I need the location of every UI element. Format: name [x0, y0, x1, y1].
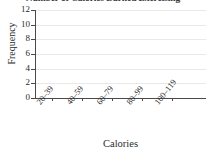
x-tick-mark — [172, 98, 173, 101]
y-axis-title: Frequency — [6, 8, 17, 80]
x-tick-mark — [142, 98, 143, 101]
x-axis-title: Calories — [35, 138, 206, 149]
chart-title: Number of Calories Burned Exercising — [0, 0, 206, 4]
y-tick-mark — [31, 25, 35, 26]
y-axis-line — [35, 10, 36, 98]
y-tick-mark — [31, 69, 35, 70]
y-tick-label: 0 — [10, 93, 30, 102]
plot-area — [35, 10, 206, 98]
bars-layer — [35, 10, 206, 98]
x-tick-mark — [82, 98, 83, 101]
y-tick-label: 2 — [10, 78, 30, 87]
x-tick-mark — [52, 98, 53, 101]
x-axis-line — [35, 98, 206, 99]
chart-container: Number of Calories Burned Exercising 12 … — [0, 0, 206, 154]
y-tick-mark — [31, 54, 35, 55]
x-tick-mark — [112, 98, 113, 101]
y-tick-mark — [31, 10, 35, 11]
y-tick-mark — [31, 39, 35, 40]
y-tick-mark — [31, 83, 35, 84]
